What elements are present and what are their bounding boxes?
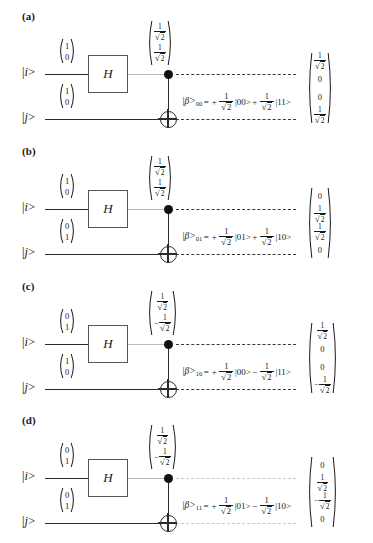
- cnot-control-dot[interactable]: [164, 474, 173, 483]
- output-state-vector-entry-1: 0: [318, 73, 322, 85]
- output-state-vector-entry-0: 1√2: [317, 322, 329, 341]
- cnot-target-icon[interactable]: [160, 515, 177, 532]
- hadamard-output-vector-entries: 1√2−1√2: [153, 426, 172, 468]
- bell-state-equation-state: |β>: [182, 367, 196, 377]
- hadamard-gate[interactable]: H: [88, 459, 128, 497]
- input-vector-top-entry: 0: [65, 310, 69, 321]
- hadamard-output-vector-entry-1-denominator: √2: [159, 457, 171, 467]
- input-vector-bottom-entry-1: 0: [65, 96, 69, 108]
- cnot-target-icon[interactable]: [160, 111, 177, 128]
- input-vector-top: 01: [57, 442, 77, 468]
- output-state-vector-entry-3-numerator: 1: [322, 376, 328, 384]
- output-state-vector-entry: 1√2: [314, 107, 326, 124]
- input-vector-top-entry-1-value: 1: [65, 455, 69, 467]
- hadamard-output-vector-right-paren: [167, 155, 174, 201]
- bell-state-equation-term2-coeff-val-fraction: 1√2: [260, 92, 274, 112]
- cnot-control-dot[interactable]: [164, 340, 173, 349]
- hadamard-output-vector-left-paren: [146, 424, 153, 470]
- hadamard-output-vector-entry-0-radical: √: [158, 302, 163, 312]
- bottom-wire-in: [45, 119, 159, 120]
- bell-state-equation-term1-coeff-val-radicand: 2: [226, 506, 231, 516]
- output-state-vector-entry-2-fraction: 1√2: [319, 492, 331, 511]
- hadamard-gate[interactable]: H: [88, 55, 128, 93]
- bell-state-equation-term1-coeff-val-fraction: 1√2: [219, 496, 233, 516]
- hadamard-output-vector-left-paren: [146, 20, 153, 66]
- hadamard-output-vector-entry: 1√2: [154, 22, 166, 43]
- hadamard-gate[interactable]: H: [88, 190, 128, 228]
- output-state-vector-entry-1-value: 0: [318, 73, 322, 85]
- bell-state-equation-term2-coeff-val-radical: √: [262, 102, 267, 112]
- input-vector-top-entry: 0: [65, 186, 69, 197]
- output-state-vector-entry-0-radical: √: [318, 331, 323, 341]
- bell-state-equation-term1-coeff-val-radical: √: [221, 102, 226, 112]
- input-vector-bottom-right-paren: [70, 218, 77, 244]
- bell-state-equation-term1-ket: |00>: [235, 98, 251, 107]
- input-vector-top-entry: 1: [65, 321, 69, 332]
- input-vector-top: 01: [57, 308, 77, 334]
- bell-state-equation-term1-coeff-val-numerator: 1: [223, 92, 229, 101]
- input-vector-top-right-paren: [70, 442, 77, 468]
- output-state-vector-entry-1-value: 0: [320, 343, 324, 355]
- hadamard-output-vector-entry: 1√2: [157, 292, 169, 313]
- input-vector-top-entry-1: 1: [65, 455, 69, 467]
- bell-state-equation: |β>01 = +1√2|01>+1√2|10>: [182, 227, 291, 247]
- output-state-vector-entry-3: 0: [318, 244, 322, 256]
- hadamard-output-vector-entry-0: 1√2: [154, 23, 166, 42]
- bell-state-equation-term2-coeff-val-denominator: √2: [260, 506, 272, 516]
- hadamard-output-vector-entry-1-denominator: √2: [159, 323, 171, 333]
- hadamard-gate[interactable]: H: [88, 325, 128, 363]
- bell-state-equation-term2-coeff: 1√2: [260, 227, 274, 247]
- input-vector-top-left-paren: [57, 308, 64, 334]
- hadamard-output-vector-entry-1: −1√2: [154, 448, 171, 467]
- bottom-wire-ket-label: |j>: [22, 110, 35, 125]
- output-state-vector-entry-3-denominator: √2: [319, 385, 331, 395]
- hadamard-output-vector-entry-1-denominator: √2: [154, 188, 166, 198]
- bell-state-equation-term1-coeff: 1√2: [219, 92, 233, 112]
- output-state-vector-entry-1-fraction: 1√2: [317, 474, 329, 493]
- hadamard-output-vector-entry-1-numerator: 1: [162, 314, 168, 322]
- bell-state-equation-term2-coeff: 1√2: [260, 92, 274, 112]
- hadamard-output-vector-right-paren: [167, 20, 174, 66]
- input-vector-bottom-entry-1-value: 1: [65, 231, 69, 243]
- hadamard-output-vector-entry: 1√2: [157, 426, 169, 447]
- input-vector-top-entry-1-value: 0: [65, 51, 69, 63]
- hadamard-output-vector-entry-0-fraction: 1√2: [157, 293, 169, 312]
- cnot-target-icon[interactable]: [160, 246, 177, 263]
- bell-state-circuits-figure: (a)|i>|j>H10101√21√2|β>00 = +1√2|00>+1√2…: [0, 0, 373, 543]
- output-state-vector-left-paren: [306, 52, 313, 124]
- output-state-vector-entry-2: −1√2: [314, 492, 331, 511]
- bell-state-equation-equals: =: [204, 368, 209, 377]
- bottom-wire-in: [45, 523, 159, 524]
- bell-state-equation-term1-sign: +: [212, 98, 217, 107]
- bell-state-equation-term1-coeff-val-radical: √: [221, 237, 226, 247]
- top-wire-ket-label: |i>: [22, 200, 35, 215]
- cnot-target-icon[interactable]: [160, 381, 177, 398]
- output-state-vector-right-paren: [327, 187, 334, 259]
- input-vector-bottom-left-paren: [57, 487, 64, 513]
- output-state-vector-entry-0-fraction: 1√2: [317, 322, 329, 341]
- hadamard-output-vector-entry-1-numerator: 1: [162, 448, 168, 456]
- output-state-vector-entry-3-fraction: 1√2: [319, 376, 331, 395]
- input-vector-bottom-entry-1: 0: [65, 366, 69, 378]
- bell-state-equation-term1-ket: |00>: [235, 368, 251, 377]
- panel-label-0: (a): [22, 10, 35, 22]
- output-state-vector-entry-0-numerator: 1: [320, 322, 326, 330]
- output-state-vector-entry: 0: [320, 511, 324, 528]
- cnot-control-dot[interactable]: [164, 205, 173, 214]
- output-state-vector-entry: 0: [318, 71, 322, 88]
- output-state-vector-entry-3-radicand: 2: [320, 115, 325, 125]
- bell-state-equation-term2-coeff-val-radicand: 2: [267, 237, 272, 247]
- bell-state-equation-term2-coeff-val: 1√2: [260, 496, 274, 516]
- bell-state-equation-state: |β>: [182, 232, 196, 242]
- cnot-control-dot[interactable]: [164, 70, 173, 79]
- bell-state-equation-term2-coeff-val-radicand: 2: [267, 372, 272, 382]
- output-state-vector-entry: 1√2: [314, 224, 326, 241]
- bell-state-equation-term2-coeff-val: 1√2: [260, 227, 274, 247]
- input-vector-top-entry-1: 0: [65, 51, 69, 63]
- hadamard-output-vector-left-paren: [146, 155, 153, 201]
- bell-state-equation-term1-coeff-val-radical: √: [221, 372, 226, 382]
- hadamard-output-vector-entry-1: −1√2: [154, 314, 171, 333]
- output-state-vector-entry: 0: [320, 457, 324, 474]
- hadamard-output-vector-entry-0-numerator: 1: [157, 158, 163, 166]
- input-vector-top-right-paren: [70, 308, 77, 334]
